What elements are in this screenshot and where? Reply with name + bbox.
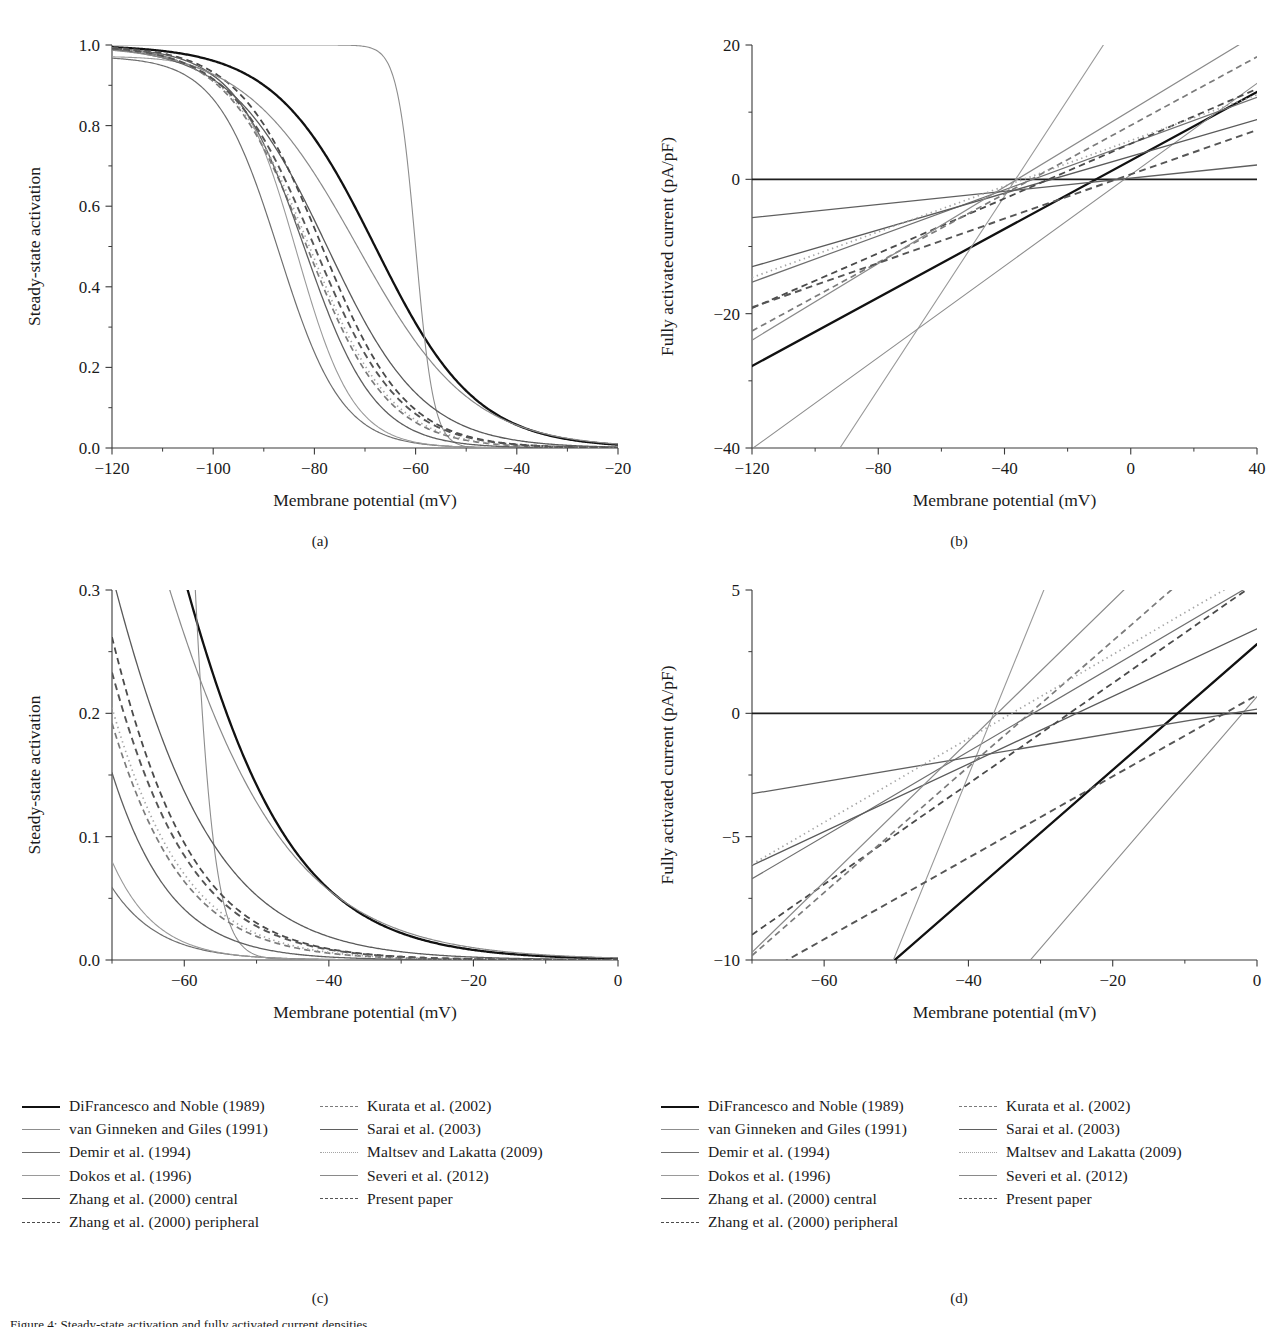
legend-item-label: Demir et al. (1994) xyxy=(69,1140,191,1163)
svg-text:−20: −20 xyxy=(460,971,487,990)
legend-item[interactable]: Maltsev and Lakatta (2009) xyxy=(320,1140,632,1163)
legend-line-sample xyxy=(320,1100,358,1112)
legend-item[interactable]: Demir et al. (1994) xyxy=(22,1140,320,1163)
legend-item-label: Zhang et al. (2000) central xyxy=(69,1187,238,1210)
series-line xyxy=(112,723,618,960)
legend-item[interactable]: Dokos et al. (1996) xyxy=(22,1164,320,1187)
svg-text:0.8: 0.8 xyxy=(79,117,100,136)
legend-line-sample xyxy=(959,1123,997,1135)
legend-item-label: Severi et al. (2012) xyxy=(367,1164,489,1187)
legend-item[interactable]: Zhang et al. (2000) central xyxy=(22,1187,320,1210)
panel-c-steady-state-activation-zoom: −60−40−2000.00.10.20.3Membrane potential… xyxy=(0,565,640,1065)
svg-text:20: 20 xyxy=(723,36,740,55)
figure-caption: Figure 4: Steady-state activation and fu… xyxy=(10,1316,1272,1327)
svg-text:0.4: 0.4 xyxy=(79,278,101,297)
panel-b-fully-activated-current: −120−80−40040−40−20020Membrane potential… xyxy=(639,0,1279,560)
legend-item[interactable]: DiFrancesco and Noble (1989) xyxy=(661,1094,959,1117)
svg-text:−120: −120 xyxy=(734,459,769,478)
legend-item[interactable]: Kurata et al. (2002) xyxy=(959,1094,1271,1117)
legend-item[interactable]: Severi et al. (2012) xyxy=(959,1164,1271,1187)
tick-labels: −120−80−40040−40−20020 xyxy=(713,36,1265,478)
svg-text:−40: −40 xyxy=(504,459,531,478)
svg-text:0: 0 xyxy=(1127,459,1136,478)
series-line xyxy=(752,583,1257,935)
series-line xyxy=(112,58,618,448)
legend-item[interactable]: DiFrancesco and Noble (1989) xyxy=(22,1094,320,1117)
legend-column-1: DiFrancesco and Noble (1989)van Ginneken… xyxy=(661,1094,959,1233)
svg-text:−40: −40 xyxy=(316,971,343,990)
legend-item[interactable]: Sarai et al. (2003) xyxy=(959,1117,1271,1140)
legend-item-label: Demir et al. (1994) xyxy=(708,1140,830,1163)
x-axis-title: Membrane potential (mV) xyxy=(273,490,457,510)
x-axis-title: Membrane potential (mV) xyxy=(273,1002,457,1022)
data-series-group xyxy=(112,45,618,448)
legend-item-label: Severi et al. (2012) xyxy=(1006,1164,1128,1187)
series-line xyxy=(112,565,618,958)
legend-line-sample xyxy=(959,1169,997,1181)
panel-d-fully-activated-current-zoom: −60−40−200−10−505Membrane potential (mV)… xyxy=(639,565,1279,1065)
legend-line-sample xyxy=(22,1169,60,1181)
plot-c: −60−40−2000.00.10.20.3Membrane potential… xyxy=(0,565,640,1065)
svg-text:0.0: 0.0 xyxy=(79,951,100,970)
series-line xyxy=(112,575,618,960)
legend-line-sample xyxy=(22,1100,60,1112)
legend-item[interactable]: van Ginneken and Giles (1991) xyxy=(22,1117,320,1140)
legend-item[interactable]: Sarai et al. (2003) xyxy=(320,1117,632,1140)
series-line xyxy=(752,165,1257,218)
legend-item-label: Sarai et al. (2003) xyxy=(367,1117,481,1140)
legend-line-sample xyxy=(959,1192,997,1204)
legend-line-sample xyxy=(22,1192,60,1204)
legend-item[interactable]: Demir et al. (1994) xyxy=(661,1140,959,1163)
y-axis-title: Fully activated current (pA/pF) xyxy=(657,665,677,884)
plot-a: −120−100−80−60−40−200.00.20.40.60.81.0Me… xyxy=(0,0,640,560)
legend-line-sample xyxy=(22,1123,60,1135)
subcaption-d: (d) xyxy=(899,1290,1019,1307)
svg-text:0.2: 0.2 xyxy=(79,704,100,723)
svg-text:−120: −120 xyxy=(94,459,129,478)
legend-item-label: Dokos et al. (1996) xyxy=(69,1164,192,1187)
y-axis-title: Steady-state activation xyxy=(24,167,44,326)
legend-item[interactable]: van Ginneken and Giles (1991) xyxy=(661,1117,959,1140)
svg-text:−20: −20 xyxy=(1099,971,1126,990)
svg-text:−20: −20 xyxy=(605,459,632,478)
legend-item[interactable]: Kurata et al. (2002) xyxy=(320,1094,632,1117)
legend-item[interactable]: Present paper xyxy=(320,1187,632,1210)
svg-text:−80: −80 xyxy=(865,459,892,478)
svg-text:−20: −20 xyxy=(713,305,740,324)
tick-marks xyxy=(746,45,1258,455)
svg-text:0: 0 xyxy=(1253,971,1262,990)
series-line xyxy=(752,565,1257,1065)
series-line xyxy=(112,887,618,960)
legend-item[interactable]: Zhang et al. (2000) peripheral xyxy=(661,1210,959,1233)
legend-item[interactable]: Dokos et al. (1996) xyxy=(661,1164,959,1187)
series-line xyxy=(112,50,618,444)
tick-marks xyxy=(106,590,619,967)
legend-item[interactable]: Maltsev and Lakatta (2009) xyxy=(959,1140,1271,1163)
legend-line-sample xyxy=(661,1146,699,1158)
svg-text:0.6: 0.6 xyxy=(79,197,100,216)
svg-text:0: 0 xyxy=(732,170,741,189)
legend-item-label: DiFrancesco and Noble (1989) xyxy=(69,1094,265,1117)
tick-marks xyxy=(106,45,619,455)
series-line xyxy=(112,861,618,960)
y-axis-title: Steady-state activation xyxy=(24,695,44,854)
svg-text:0.2: 0.2 xyxy=(79,358,100,377)
legend-item[interactable]: Zhang et al. (2000) peripheral xyxy=(22,1210,320,1233)
svg-text:−40: −40 xyxy=(713,439,740,458)
series-line xyxy=(752,565,1257,956)
legend-column-2: Kurata et al. (2002)Sarai et al. (2003)M… xyxy=(959,1094,1271,1233)
data-series-group xyxy=(752,565,1257,1065)
legend-column-1: DiFrancesco and Noble (1989)van Ginneken… xyxy=(22,1094,320,1233)
legend-item-label: Zhang et al. (2000) central xyxy=(708,1187,877,1210)
svg-text:−40: −40 xyxy=(991,459,1018,478)
legend-item[interactable]: Zhang et al. (2000) central xyxy=(661,1187,959,1210)
legend-item[interactable]: Severi et al. (2012) xyxy=(320,1164,632,1187)
legend-line-sample xyxy=(22,1216,60,1228)
subcaption-a: (a) xyxy=(260,533,380,550)
series-line xyxy=(752,34,1257,340)
plot-b: −120−80−40040−40−20020Membrane potential… xyxy=(639,0,1279,560)
tick-marks xyxy=(746,590,1258,967)
legend-item[interactable]: Present paper xyxy=(959,1187,1271,1210)
legend-left: DiFrancesco and Noble (1989)van Ginneken… xyxy=(22,1094,632,1233)
svg-text:0.0: 0.0 xyxy=(79,439,100,458)
